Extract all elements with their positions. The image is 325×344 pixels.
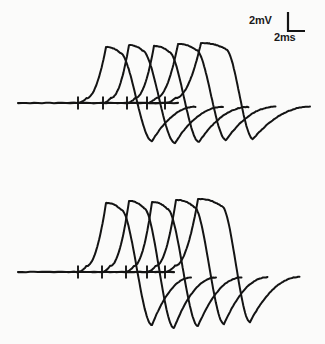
sweep-trace-5	[155, 43, 310, 139]
scale-bar-lines	[288, 12, 305, 31]
scale-bar-voltage-label: 2mV	[249, 14, 272, 26]
sweep-trace-4	[137, 200, 268, 324]
sweep-trace-5	[155, 199, 300, 322]
upper-panel	[18, 43, 310, 143]
lower-panel	[18, 199, 300, 328]
sweep-trace-1	[68, 47, 196, 141]
scale-bar-time-label: 2ms	[274, 31, 295, 43]
action-potential-figure: 2mV 2ms	[0, 0, 325, 344]
calibration-scale-bar	[288, 12, 305, 31]
trace-plot-area	[0, 0, 325, 344]
sweep-trace-2	[92, 201, 216, 328]
sweep-trace-2	[93, 45, 223, 143]
